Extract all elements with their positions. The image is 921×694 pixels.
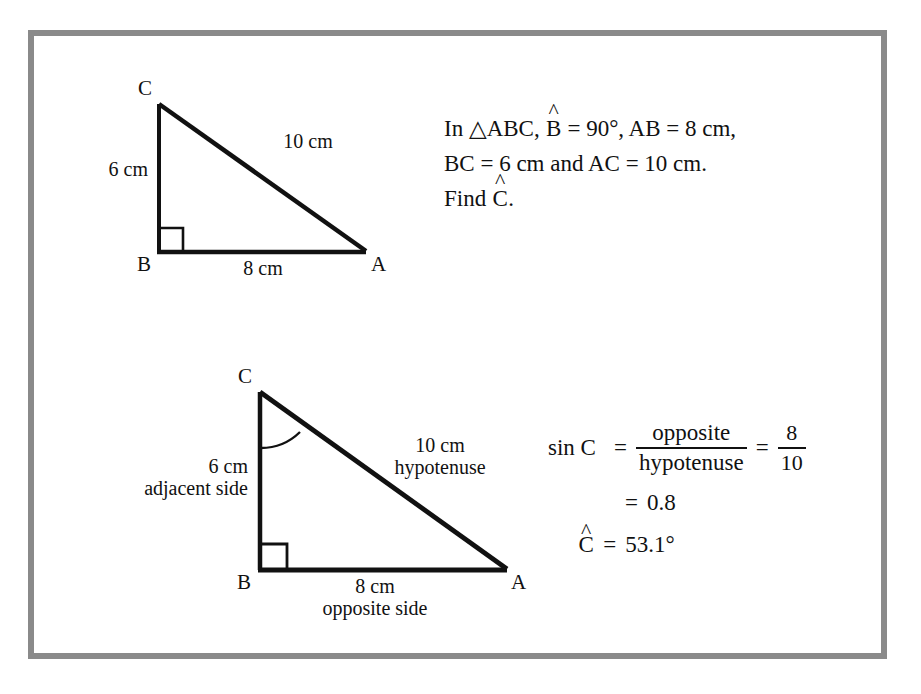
angle-b-hat: ^B <box>545 112 561 147</box>
fraction2-denominator: 10 <box>778 449 806 476</box>
figure2-adjacent-value: 6 cm <box>82 455 248 477</box>
problem-statement: In △ABC, ^B = 90°, AB = 8 cm, BC = 6 cm … <box>444 112 844 217</box>
fraction-8-over-10: 8 10 <box>778 420 806 476</box>
figure2-side-label-hypotenuse: 10 cm hypotenuse <box>360 434 520 479</box>
figure1-side-label-base: 8 cm <box>213 257 313 279</box>
figure1-vertex-label-a: A <box>371 254 386 275</box>
statement-line-1: In △ABC, ^B = 90°, AB = 8 cm, <box>444 112 844 147</box>
sin-c-lhs: sin C <box>548 435 596 461</box>
figure2-side-label-adjacent: 6 cm adjacent side <box>82 455 248 500</box>
figure2-opposite-value: 8 cm <box>295 575 455 597</box>
figure1-vertex-label-b: B <box>137 254 151 275</box>
fraction1-denominator: hypotenuse <box>636 449 747 476</box>
fraction-opposite-over-hypotenuse: opposite hypotenuse <box>636 420 747 476</box>
statement-line3-prefix: Find <box>444 186 492 211</box>
equals-sign-2: = <box>756 435 769 461</box>
hat-accent-icon: ^ <box>495 171 505 193</box>
statement-line1-abc: ABC, <box>487 116 546 141</box>
solution-row-angle-c: ^C = 53.1° <box>578 528 806 562</box>
worked-solution: sin C = opposite hypotenuse = 8 10 = 0.8… <box>548 420 806 562</box>
statement-line3-suffix: . <box>508 186 514 211</box>
result-angle-c-hat: ^C <box>578 532 594 558</box>
solution-row-sin-c: sin C = opposite hypotenuse = 8 10 <box>548 420 806 476</box>
equals-sign-3: = <box>625 490 638 516</box>
statement-line1-suffix: = 90°, AB = 8 cm, <box>562 116 736 141</box>
figure1-side-label-hypotenuse: 10 cm <box>253 130 363 152</box>
statement-line-3: Find ^C. <box>444 182 844 217</box>
statement-line1-prefix: In <box>444 116 469 141</box>
figure-page: C B A 6 cm 10 cm 8 cm In △ABC, ^B = 90°,… <box>0 0 921 694</box>
triangle-symbol-icon: △ <box>469 116 487 141</box>
figure1-vertex-label-c: C <box>138 78 152 99</box>
fraction2-numerator: 8 <box>783 420 800 447</box>
figure2-side-label-opposite: 8 cm opposite side <box>295 575 455 620</box>
solution-row-decimal: = 0.8 <box>616 486 806 520</box>
figure1-side-label-vertical: 6 cm <box>48 158 148 180</box>
hat-accent-icon: ^ <box>581 521 591 543</box>
angle-c-hat: ^C <box>492 182 508 217</box>
equals-sign-4: = <box>603 532 616 558</box>
equals-sign-1: = <box>614 435 627 461</box>
figure2-vertex-label-c: C <box>238 366 252 387</box>
figure2-vertex-label-b: B <box>237 572 251 593</box>
hat-accent-icon: ^ <box>548 101 558 123</box>
angle-c-result-value: 53.1° <box>625 532 674 558</box>
sin-c-decimal-value: 0.8 <box>647 490 676 516</box>
fraction1-numerator: opposite <box>649 420 733 447</box>
figure2-adjacent-role: adjacent side <box>82 477 248 499</box>
figure2-hypotenuse-value: 10 cm <box>360 434 520 456</box>
figure2-opposite-role: opposite side <box>295 597 455 619</box>
figure2-vertex-label-a: A <box>511 572 526 593</box>
figure2-hypotenuse-role: hypotenuse <box>360 456 520 478</box>
